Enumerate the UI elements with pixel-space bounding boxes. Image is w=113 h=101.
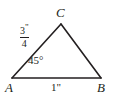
triangle-side-cb: [61, 24, 101, 78]
vertex-label-b: B: [97, 81, 105, 94]
vertex-label-a: A: [5, 81, 13, 94]
side-length-label-ac: 3" 4: [20, 23, 29, 49]
angle-label-at-a: 45°: [28, 55, 43, 66]
fraction-numerator: 3": [20, 23, 29, 38]
side-length-label-ab: 1": [51, 82, 61, 93]
vertex-label-c: C: [56, 6, 65, 19]
inch-mark: ": [25, 22, 29, 32]
fraction-denominator: 4: [22, 38, 27, 49]
